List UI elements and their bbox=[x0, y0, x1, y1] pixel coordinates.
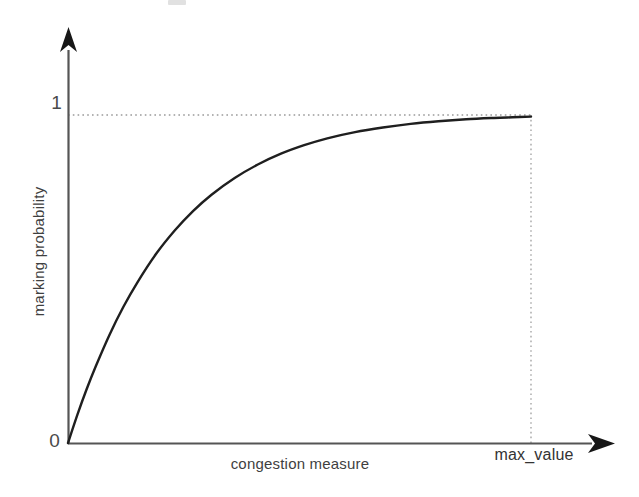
x-axis-title: congestion measure bbox=[180, 455, 420, 472]
y-axis-title: marking probability bbox=[30, 152, 47, 352]
y-axis-tick-label-one: 1 bbox=[44, 92, 62, 114]
y-axis-arrow-icon bbox=[60, 27, 77, 52]
marking-probability-curve bbox=[68, 117, 531, 443]
chart-plot-area bbox=[0, 0, 639, 497]
chart-figure: 1 0 marking probability congestion measu… bbox=[0, 0, 639, 497]
x-axis-tick-label-max-value: max_value bbox=[474, 446, 594, 464]
y-axis-tick-label-zero: 0 bbox=[42, 430, 60, 452]
